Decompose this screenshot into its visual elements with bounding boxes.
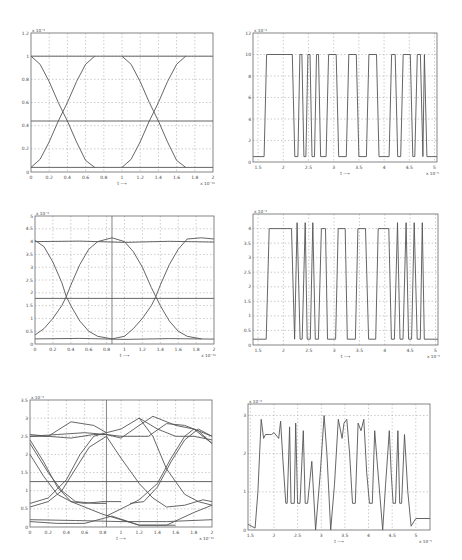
- y-tick-label: 3: [243, 413, 246, 418]
- x-tick-label: 0.8: [103, 347, 110, 352]
- x-tick-label: 2: [211, 530, 214, 535]
- x-tick-label: 2: [273, 533, 276, 538]
- x-tick-label: 5: [434, 348, 437, 353]
- x-tick-label: 5: [433, 165, 436, 170]
- x-tick-label: 1.4: [154, 530, 161, 535]
- x-tick-label: 4: [367, 533, 370, 538]
- y-tick-label: 4: [248, 226, 251, 231]
- x-axis-label: t ⟶: [117, 181, 127, 186]
- x-tick-label: 1.6: [173, 175, 180, 180]
- grid-lines: [35, 216, 214, 344]
- y-exponent-label: x 10⁻³: [32, 28, 45, 33]
- chart-panel-p1: 00.20.40.60.811.21.41.61.8200.20.40.60.8…: [22, 28, 215, 187]
- y-tick-label: 3: [30, 265, 33, 270]
- y-tick-label: 2: [243, 451, 246, 456]
- x-tick-label: 2.5: [305, 165, 312, 170]
- y-tick-label: 0.4: [22, 123, 29, 128]
- y-tick-label: 1.5: [21, 470, 28, 475]
- y-tick-label: 2.5: [21, 434, 28, 439]
- y-tick-label: 0: [26, 170, 29, 175]
- y-tick-label: 1: [26, 54, 29, 59]
- x-tick-label: 1.8: [193, 347, 200, 352]
- y-tick-label: 1.5: [244, 299, 251, 304]
- y-tick-label: 1: [25, 488, 28, 493]
- y-tick-label: 3.5: [21, 398, 28, 403]
- y-tick-label: 2.5: [26, 278, 33, 283]
- series-rise-c: [130, 429, 212, 503]
- x-tick-label: 0: [30, 175, 33, 180]
- chart-panel-p3: 00.20.40.60.811.21.41.61.8200.511.522.53…: [26, 211, 216, 359]
- x-tick-label: 4.5: [389, 533, 396, 538]
- y-tick-label: 0: [30, 342, 33, 347]
- x-tick-label: 0.4: [63, 530, 70, 535]
- y-tick-label: 3.5: [26, 252, 33, 257]
- y-tick-label: 0: [248, 343, 251, 348]
- x-tick-label: 3: [320, 533, 323, 538]
- y-tick-label: 1.5: [26, 303, 33, 308]
- x-tick-label: 4.5: [406, 165, 413, 170]
- x-tick-label: 4: [383, 165, 386, 170]
- y-tick-label: 0.2: [22, 146, 29, 151]
- x-tick-label: 1.8: [190, 530, 197, 535]
- x-tick-label: 0.8: [99, 530, 106, 535]
- y-tick-label: 0: [248, 160, 251, 165]
- x-axis-label: t ⟶: [120, 353, 130, 358]
- y-tick-label: 10: [245, 52, 251, 57]
- y-tick-label: 0.5: [244, 328, 251, 333]
- x-exponent-label: x 10⁻¹⁰: [201, 353, 216, 358]
- x-exponent-label: x 10⁻⁹: [419, 539, 432, 544]
- grid-lines: [30, 400, 212, 527]
- x-tick-label: 1.4: [155, 175, 162, 180]
- x-tick-label: 1.2: [136, 530, 143, 535]
- y-tick-label: 0.6: [22, 100, 29, 105]
- x-tick-label: 5: [414, 533, 417, 538]
- x-tick-label: 2: [212, 175, 215, 180]
- series-mid-fall: [106, 436, 212, 507]
- x-tick-label: 4.5: [407, 348, 414, 353]
- x-tick-label: 1: [121, 175, 124, 180]
- figure-svg: 00.20.40.60.811.21.41.61.8200.20.40.60.8…: [0, 0, 462, 560]
- x-tick-label: 0: [34, 347, 37, 352]
- x-tick-label: 0.6: [81, 530, 88, 535]
- grid-lines: [253, 33, 437, 162]
- y-exponent-label: x 10⁻⁴: [254, 209, 267, 214]
- series-rise-2: [112, 238, 214, 339]
- y-tick-label: 3: [25, 416, 28, 421]
- x-tick-label: 3: [333, 348, 336, 353]
- y-tick-label: 6: [248, 95, 251, 100]
- x-tick-label: 2: [282, 165, 285, 170]
- figure-grid: 00.20.40.60.811.21.41.61.8200.20.40.60.8…: [0, 0, 462, 560]
- series-rise-a: [30, 436, 106, 507]
- y-tick-label: 3: [248, 255, 251, 260]
- y-tick-label: 1.2: [22, 31, 29, 36]
- x-exponent-label: x 10⁻⁹: [427, 354, 440, 359]
- x-axis-label: t ⟶: [116, 536, 126, 541]
- y-exponent-label: x 10⁻⁴: [31, 395, 44, 400]
- y-tick-label: 1: [248, 313, 251, 318]
- x-exponent-label: x 10⁻¹⁰: [199, 536, 214, 541]
- x-tick-label: 1.8: [191, 175, 198, 180]
- chart-panel-p2: 1.522.533.544.55024681012x 10⁻⁴x 10⁻⁹t ⟶: [245, 28, 439, 177]
- chart-panel-p6: 1.522.533.544.550123x 10⁻⁴x 10⁻⁹t ⟶: [243, 399, 432, 545]
- x-tick-label: 1: [120, 530, 123, 535]
- y-exponent-label: x 10⁻⁴: [36, 211, 49, 216]
- x-tick-label: 0.2: [46, 175, 53, 180]
- chart-panel-p4: 1.522.533.544.5500.511.522.533.54x 10⁻⁴x…: [244, 209, 440, 360]
- x-exponent-label: x 10⁻¹⁰: [200, 181, 215, 186]
- y-tick-label: 2: [248, 284, 251, 289]
- series-waveform: [253, 55, 437, 157]
- x-axis-label: t ⟶: [340, 171, 350, 176]
- x-tick-label: 2.5: [294, 533, 301, 538]
- y-tick-label: 0: [25, 525, 28, 530]
- x-tick-label: 0.2: [45, 530, 52, 535]
- x-tick-label: 0.8: [100, 175, 107, 180]
- series-upper-3: [30, 416, 212, 438]
- y-tick-label: 0.8: [22, 77, 29, 82]
- y-tick-label: 1: [243, 489, 246, 494]
- y-tick-label: 4: [248, 117, 251, 122]
- x-tick-label: 1.6: [175, 347, 182, 352]
- x-tick-label: 3.5: [356, 348, 363, 353]
- y-exponent-label: x 10⁻⁴: [249, 399, 262, 404]
- series-rise-1: [35, 238, 112, 335]
- y-tick-label: 2: [30, 290, 33, 295]
